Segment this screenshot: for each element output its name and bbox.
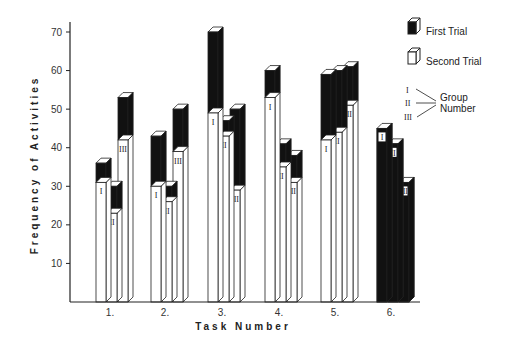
x-tick-label: 2. [161,307,169,318]
x-axis: 1.2.3.4.5.6. [70,302,420,318]
bar-task2-group-I: I [151,131,166,302]
bar-task6-group-I: I [377,123,392,302]
legend-first-trial-label: First Trial [426,26,467,37]
svg-text:II: II [405,99,411,108]
legend-second-trial-swatch-icon [408,48,420,64]
y-axis-title: Frequency of Activities [29,76,40,255]
legend-first-trial-swatch-icon [408,18,420,34]
svg-text:I: I [406,86,409,95]
svg-text:III: III [404,113,412,122]
legend-second-trial-label: Second Trial [426,56,482,67]
x-tick-label: 5. [331,307,339,318]
group-label: I [325,145,328,154]
group-key: I II III Group Number [404,86,476,122]
group-label: I [381,133,384,142]
x-tick-label: 3. [218,307,226,318]
x-axis-title: Task Number [195,321,291,332]
y-tick-label: 60 [51,65,63,76]
bars: IIIIIIIIIIIIIIIIIIIIIIIIIIIIIIIIIIII [96,27,414,302]
group-label: I [212,118,215,127]
bar-task3-group-I: I [208,27,223,302]
y-tick-label: 50 [51,104,63,115]
group-label: I [269,103,272,112]
x-tick-label: 6. [387,307,395,318]
y-tick-label: 70 [51,27,63,38]
group-caption-2: Number [440,103,476,114]
group-caption: Group [440,92,468,103]
group-label: I [155,191,158,200]
y-tick-label: 10 [51,258,63,269]
bar-chart: 10203040506070 IIIIIIIIIIIIIIIIIIIIIIIII… [0,0,509,346]
y-tick-label: 40 [51,142,63,153]
y-tick-label: 30 [51,181,63,192]
y-tick-label: 20 [51,219,63,230]
bar-task4-group-I: I [265,66,280,302]
group-label: III [174,157,182,166]
bar-task1-group-I: I [96,158,111,302]
legend: First Trial Second Trial I II III Group … [404,18,482,122]
y-axis: 10203040506070 [51,22,70,302]
group-label: I [100,187,103,196]
bar-task5-group-I: I [321,69,336,302]
x-tick-label: 4. [275,307,283,318]
x-tick-label: 1. [106,307,114,318]
group-label: III [119,145,127,154]
